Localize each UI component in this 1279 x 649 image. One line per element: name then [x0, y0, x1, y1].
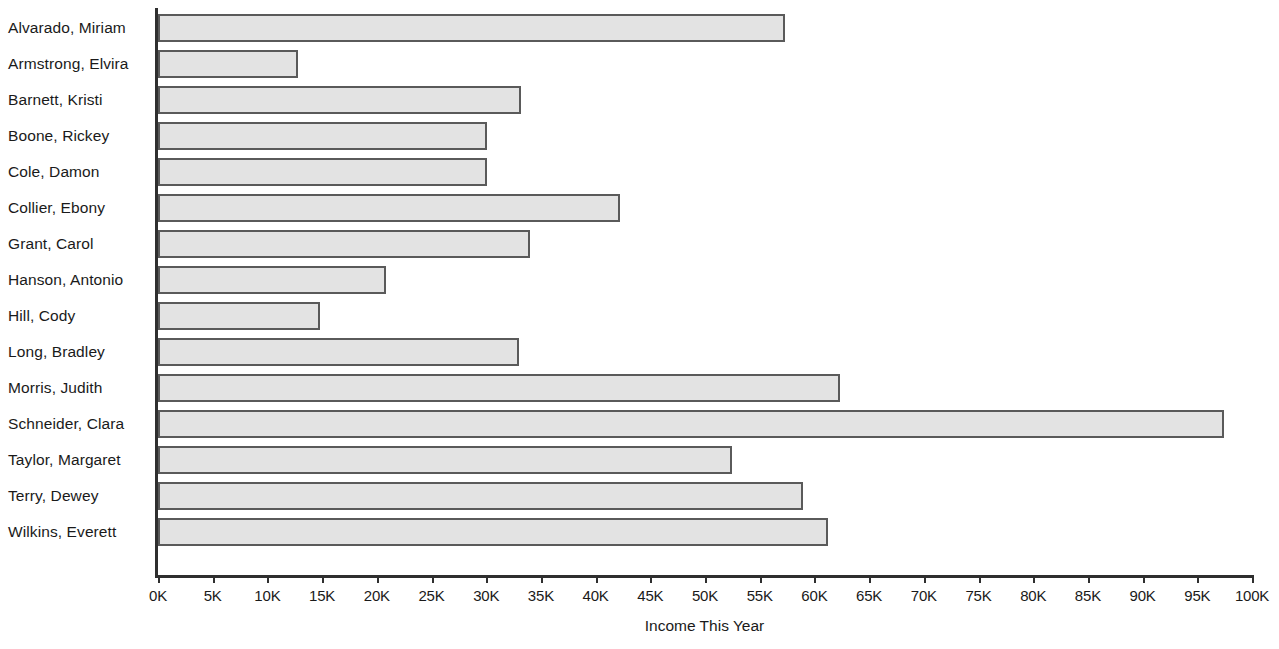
axis-tick	[541, 575, 543, 583]
bar[interactable]	[158, 158, 487, 186]
axis-tick-label: 30K	[456, 587, 516, 604]
category-label: Taylor, Margaret	[8, 442, 153, 478]
bar[interactable]	[158, 374, 840, 402]
axis-tick-label: 40K	[566, 587, 626, 604]
axis-tick	[322, 575, 324, 583]
bar[interactable]	[158, 518, 828, 546]
axis-tick	[1033, 575, 1035, 583]
category-label: Hill, Cody	[8, 298, 153, 334]
axis-tick	[158, 575, 160, 583]
x-axis-title-text: Income This Year	[645, 617, 764, 634]
axis-tick	[979, 575, 981, 583]
bar-row[interactable]	[158, 406, 1252, 442]
plot-area	[158, 10, 1252, 575]
category-label: Wilkins, Everett	[8, 514, 153, 550]
axis-tick-label: 70K	[894, 587, 954, 604]
axis-tick-label: 100K	[1222, 587, 1279, 604]
bar-row[interactable]	[158, 154, 1252, 190]
axis-tick-label: 35K	[511, 587, 571, 604]
category-label: Collier, Ebony	[8, 190, 153, 226]
bar[interactable]	[158, 14, 785, 42]
axis-tick	[267, 575, 269, 583]
category-label: Alvarado, Miriam	[8, 10, 153, 46]
axis-tick-label: 60K	[784, 587, 844, 604]
bar-row[interactable]	[158, 514, 1252, 550]
axis-tick	[1143, 575, 1145, 583]
axis-tick-label: 10K	[237, 587, 297, 604]
axis-tick-label: 90K	[1113, 587, 1173, 604]
bar-row[interactable]	[158, 82, 1252, 118]
axis-tick-label: 55K	[730, 587, 790, 604]
axis-tick-label: 50K	[675, 587, 735, 604]
bar-chart: Alvarado, MiriamArmstrong, ElviraBarnett…	[0, 0, 1279, 649]
bar-row[interactable]	[158, 10, 1252, 46]
axis-tick-label: 0K	[128, 587, 188, 604]
axis-tick	[486, 575, 488, 583]
category-label: Armstrong, Elvira	[8, 46, 153, 82]
bar-row[interactable]	[158, 478, 1252, 514]
category-label: Boone, Rickey	[8, 118, 153, 154]
bar-row[interactable]	[158, 370, 1252, 406]
axis-tick	[650, 575, 652, 583]
axis-tick	[760, 575, 762, 583]
axis-tick	[377, 575, 379, 583]
bar[interactable]	[158, 86, 521, 114]
bar[interactable]	[158, 302, 320, 330]
bar[interactable]	[158, 446, 732, 474]
axis-tick-label: 95K	[1167, 587, 1227, 604]
axis-tick	[1197, 575, 1199, 583]
bar[interactable]	[158, 266, 386, 294]
axis-tick	[596, 575, 598, 583]
axis-tick-label: 80K	[1003, 587, 1063, 604]
axis-tick-label: 85K	[1058, 587, 1118, 604]
category-label: Hanson, Antonio	[8, 262, 153, 298]
axis-tick-label: 25K	[402, 587, 462, 604]
bar-row[interactable]	[158, 442, 1252, 478]
axis-tick-label: 65K	[839, 587, 899, 604]
axis-tick-label: 45K	[620, 587, 680, 604]
axis-tick-label: 5K	[183, 587, 243, 604]
bar-row[interactable]	[158, 118, 1252, 154]
cropped-chart-title	[8, 0, 708, 5]
bar[interactable]	[158, 410, 1224, 438]
axis-tick-label: 75K	[949, 587, 1009, 604]
bar[interactable]	[158, 122, 487, 150]
category-label: Barnett, Kristi	[8, 82, 153, 118]
axis-tick	[924, 575, 926, 583]
axis-tick	[1088, 575, 1090, 583]
category-label: Cole, Damon	[8, 154, 153, 190]
category-label: Morris, Judith	[8, 370, 153, 406]
bar[interactable]	[158, 50, 298, 78]
axis-tick	[1252, 575, 1254, 583]
bar-row[interactable]	[158, 334, 1252, 370]
bar[interactable]	[158, 482, 803, 510]
bar-row[interactable]	[158, 262, 1252, 298]
bar-row[interactable]	[158, 190, 1252, 226]
x-axis-title: Income This Year	[0, 617, 1279, 635]
axis-tick	[869, 575, 871, 583]
bar[interactable]	[158, 338, 519, 366]
category-label: Terry, Dewey	[8, 478, 153, 514]
bar-row[interactable]	[158, 46, 1252, 82]
axis-tick	[814, 575, 816, 583]
bar-row[interactable]	[158, 226, 1252, 262]
category-label: Schneider, Clara	[8, 406, 153, 442]
axis-tick	[705, 575, 707, 583]
axis-tick	[432, 575, 434, 583]
axis-tick-label: 20K	[347, 587, 407, 604]
category-label: Long, Bradley	[8, 334, 153, 370]
bar-row[interactable]	[158, 298, 1252, 334]
axis-tick	[213, 575, 215, 583]
bar-rows	[158, 10, 1252, 575]
axis-tick-label: 15K	[292, 587, 352, 604]
category-label: Grant, Carol	[8, 226, 153, 262]
bar[interactable]	[158, 230, 530, 258]
bar[interactable]	[158, 194, 620, 222]
